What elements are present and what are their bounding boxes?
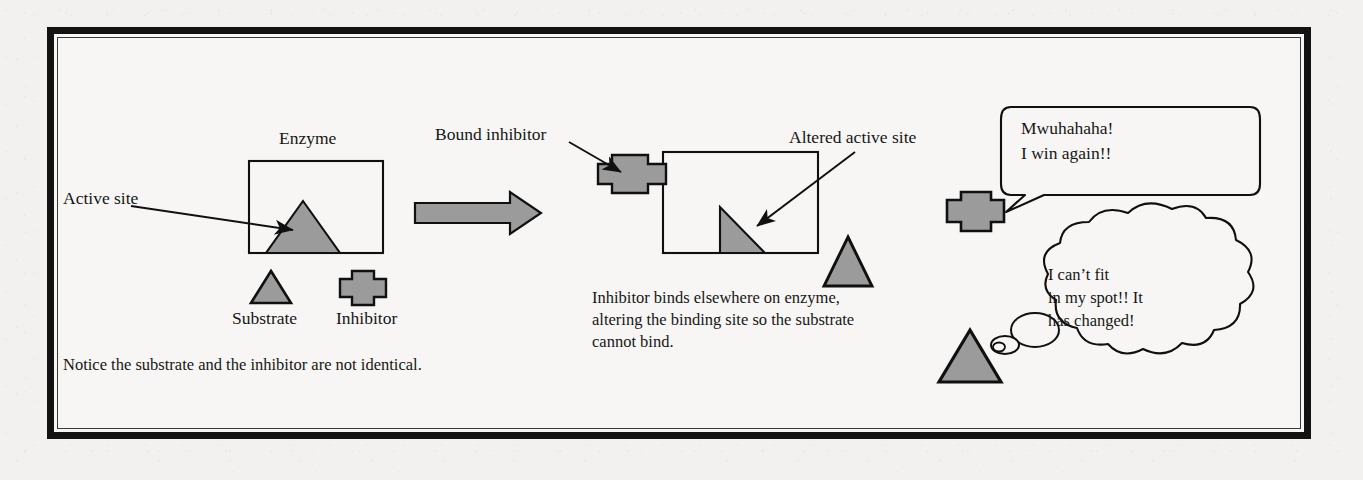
label-substrate: Substrate	[232, 308, 297, 329]
label-altered-active-site: Altered active site	[789, 127, 916, 148]
bound-inhibitor-shape	[598, 155, 666, 193]
substrate-triangle-left	[251, 271, 291, 303]
thought-bubble-line2: in my spot!! It	[1048, 288, 1143, 308]
label-enzyme: Enzyme	[279, 128, 336, 149]
label-inhibitor: Inhibitor	[336, 308, 397, 329]
thought-bubble-tail-tiny	[993, 343, 1005, 352]
thought-bubble-line1: I can’t fit	[1048, 265, 1109, 285]
substrate-character	[939, 330, 1001, 382]
inhibitor-character	[947, 192, 1004, 231]
thought-bubble-line3: has changed!	[1048, 311, 1135, 331]
label-bound-inhibitor: Bound inhibitor	[435, 124, 546, 145]
speech-bubble-line1: Mwuhahaha!	[1021, 118, 1113, 139]
substrate-triangle-middle	[824, 237, 872, 286]
caption-left: Notice the substrate and the inhibitor a…	[63, 355, 422, 375]
caption-middle-line3: cannot bind.	[592, 332, 674, 352]
speech-bubble-line2: I win again!!	[1021, 143, 1111, 164]
label-active-site: Active site	[63, 188, 138, 209]
caption-middle-line1: Inhibitor binds elsewhere on enzyme,	[592, 288, 840, 308]
active-site-pointer-line	[131, 206, 293, 230]
caption-middle-line2: altering the binding site so the substra…	[592, 310, 854, 330]
altered-active-site-triangle	[720, 207, 765, 253]
altered-active-site-pointer-line	[757, 152, 855, 226]
inhibitor-shape-left	[340, 271, 386, 305]
transition-arrow	[415, 192, 541, 234]
diagram-canvas	[0, 0, 1363, 480]
